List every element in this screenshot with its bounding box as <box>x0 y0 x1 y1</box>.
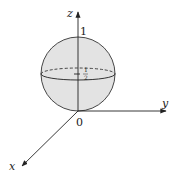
half-denominator: 2 <box>84 74 88 81</box>
origin-label: 0 <box>76 116 83 129</box>
half-numerator: 1 <box>84 66 88 73</box>
x-axis-label: x <box>9 160 16 173</box>
y-axis-label: y <box>161 97 169 110</box>
x-axis <box>22 111 78 166</box>
sphere-diagram: z 1 1 2 y 0 x <box>0 0 180 182</box>
z-axis-label: z <box>66 7 73 20</box>
z-tick-one: 1 <box>80 25 87 38</box>
